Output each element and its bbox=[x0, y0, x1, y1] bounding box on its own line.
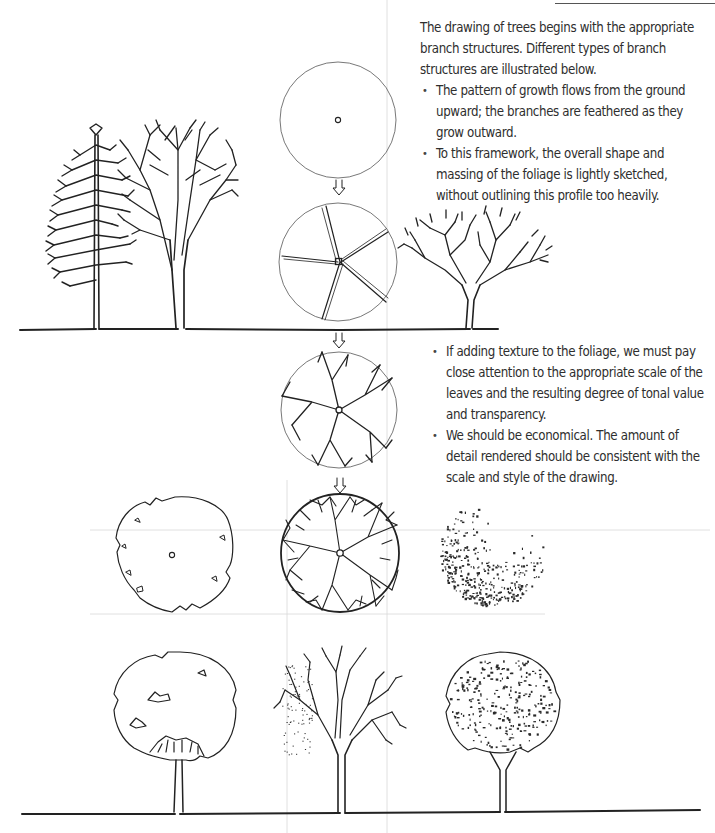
plan-circle-trunk bbox=[280, 62, 396, 178]
section2-bullet-list: If adding texture to the foliage, we mus… bbox=[430, 341, 712, 488]
conifer-tree-drawing bbox=[46, 124, 136, 328]
spreading-tree-drawing bbox=[398, 206, 552, 328]
down-arrow-icon bbox=[333, 333, 345, 348]
foliage-clusters bbox=[450, 660, 556, 751]
intro-text-block: The drawing of trees begins with the app… bbox=[420, 17, 712, 206]
ground-line-bottom bbox=[22, 810, 700, 814]
ground-line-top bbox=[20, 329, 498, 330]
down-arrow-icon bbox=[334, 478, 346, 493]
texture-text-block: If adding texture to the foliage, we mus… bbox=[430, 341, 712, 488]
bullet-item: The pattern of growth flows from the gro… bbox=[420, 80, 712, 143]
plan-branching-full bbox=[281, 494, 399, 612]
bullet-item: To this framework, the overall shape and… bbox=[420, 143, 712, 206]
textured-foliage-tree bbox=[446, 652, 560, 812]
plan-foliage-outline bbox=[116, 497, 233, 612]
plan-circle-primary-branches bbox=[279, 203, 397, 321]
intro-paragraph: The drawing of trees begins with the app… bbox=[420, 17, 712, 80]
deciduous-tree-drawing bbox=[118, 120, 238, 328]
branch-structure-tree bbox=[274, 646, 406, 812]
plan-foliage-texture bbox=[440, 509, 544, 607]
bullet-item: If adding texture to the foliage, we mus… bbox=[430, 341, 712, 425]
bullet-item: We should be economical. The amount of d… bbox=[430, 425, 712, 488]
foliage-outline-tree bbox=[114, 652, 236, 812]
down-arrow-icon bbox=[333, 180, 345, 195]
book-page: The drawing of trees begins with the app… bbox=[0, 0, 715, 833]
section1-bullet-list: The pattern of growth flows from the gro… bbox=[420, 80, 712, 206]
plan-circle-secondary-branches bbox=[281, 352, 397, 468]
